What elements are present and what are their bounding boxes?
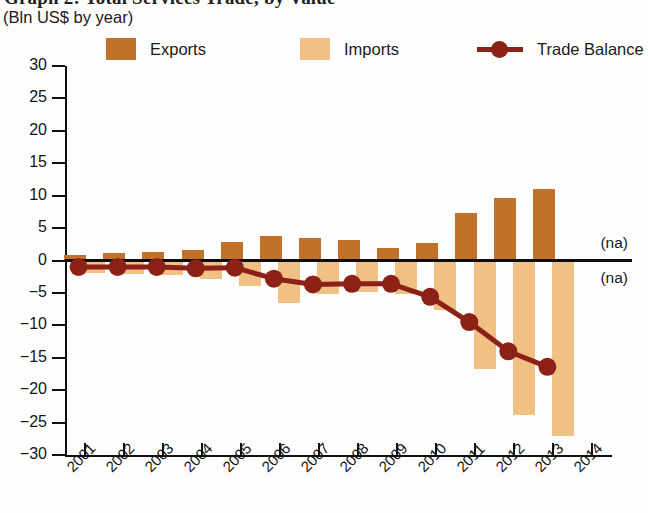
trade-balance-point-2003: [148, 258, 166, 276]
trade-balance-point-2011: [460, 313, 478, 331]
trade-balance-point-2001: [70, 258, 88, 276]
trade-balance-point-2008: [343, 275, 361, 293]
trade-balance-point-2006: [265, 270, 283, 288]
trade-balance-point-2004: [187, 259, 205, 277]
trade-balance-point-2012: [499, 342, 517, 360]
trade-balance-point-2010: [421, 288, 439, 306]
trade-balance-point-2002: [109, 258, 127, 276]
trade-balance-point-2013: [538, 358, 556, 376]
na-label-below-zero: (na): [600, 269, 628, 287]
trade-balance-series: [0, 0, 648, 513]
trade-balance-point-2009: [382, 275, 400, 293]
trade-balance-point-2007: [304, 275, 322, 293]
trade-balance-point-2005: [226, 259, 244, 277]
na-label-above-zero: (na): [600, 234, 628, 252]
chart-root: Graph 2: Total Services Trade, by Value …: [0, 0, 648, 513]
